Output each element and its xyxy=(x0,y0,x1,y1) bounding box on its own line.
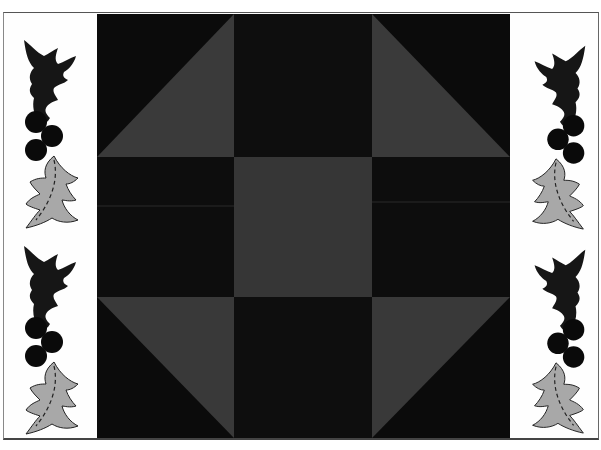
patch-bottom-center xyxy=(234,297,372,438)
quilt-pattern xyxy=(97,14,510,438)
holly-leaf-light xyxy=(533,363,584,433)
holly-berry xyxy=(25,345,47,367)
holly-sprig-icon xyxy=(522,236,592,436)
holly-leaf-light xyxy=(26,156,78,228)
patch-center xyxy=(234,157,372,297)
patch-middle-right xyxy=(372,157,510,297)
patch-middle-left xyxy=(97,157,234,297)
left-holly-border xyxy=(4,14,97,438)
holly-berry xyxy=(563,346,584,367)
quilt-block xyxy=(97,14,510,438)
holly-berry xyxy=(25,139,47,161)
holly-berry xyxy=(563,142,584,163)
holly-leaf-light xyxy=(26,362,78,434)
holly-leaf-light xyxy=(533,159,584,229)
holly-sprig-icon xyxy=(18,26,88,231)
holly-sprig-icon xyxy=(522,32,592,232)
patch-top-center xyxy=(234,14,372,157)
holly-sprig-icon xyxy=(18,232,88,437)
right-holly-border xyxy=(510,14,598,438)
